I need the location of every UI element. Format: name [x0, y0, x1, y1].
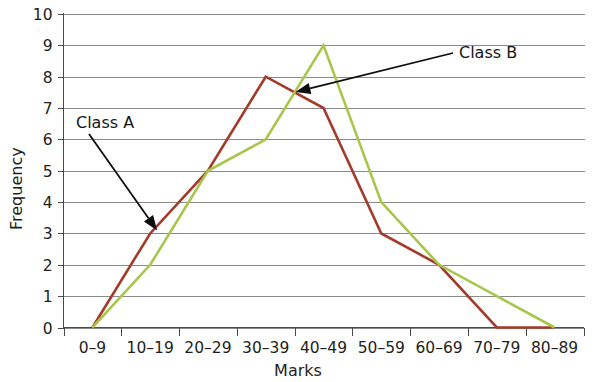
- x-tick-label: 80–89: [531, 339, 578, 357]
- y-tick-label: 5: [43, 163, 53, 181]
- y-tick-label: 9: [43, 37, 53, 55]
- y-tick-label: 2: [43, 257, 53, 275]
- y-tick-label: 1: [43, 288, 53, 306]
- x-tick-label: 40–49: [300, 339, 347, 357]
- line-chart-canvas: 012345678910 0–910–1920–2930–3940–4950–5…: [0, 0, 596, 382]
- x-axis-title: Marks: [274, 361, 322, 380]
- x-tick-label: 30–39: [242, 339, 289, 357]
- y-tick-label: 7: [43, 100, 53, 118]
- x-tick-label: 20–29: [184, 339, 231, 357]
- y-tick-label: 6: [43, 131, 53, 149]
- y-tick-label: 10: [33, 6, 53, 24]
- x-axis-tick-labels: 0–910–1920–2930–3940–4950–5960–6970–7980…: [79, 339, 579, 357]
- y-tick-label: 8: [43, 69, 53, 87]
- annotation-label-class-b: Class B: [459, 43, 517, 62]
- x-tick-label: 0–9: [79, 339, 106, 357]
- y-tick-label: 4: [43, 194, 53, 212]
- x-tick-label: 50–59: [358, 339, 405, 357]
- y-tick-label: 3: [43, 225, 53, 243]
- annotation-label-class-a: Class A: [76, 113, 134, 132]
- x-tick-label: 60–69: [415, 339, 462, 357]
- y-axis-title: Frequency: [7, 147, 26, 230]
- x-tick-label: 70–79: [473, 339, 520, 357]
- x-tick-label: 10–19: [127, 339, 174, 357]
- y-tick-label: 0: [43, 320, 53, 338]
- chart-figure: 012345678910 0–910–1920–2930–3940–4950–5…: [0, 0, 596, 382]
